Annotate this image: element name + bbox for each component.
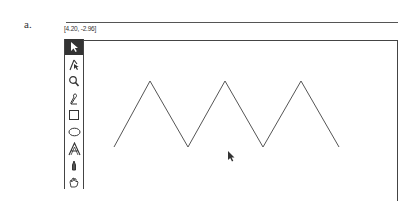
zigzag-path[interactable] (114, 81, 339, 147)
mouse-cursor-icon (228, 151, 235, 162)
